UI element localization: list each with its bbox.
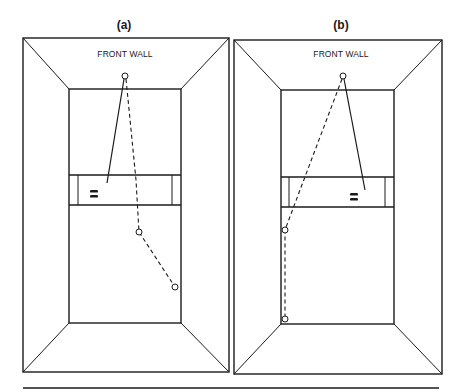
corner-edge: [394, 324, 442, 374]
player-foot-icon: [350, 193, 358, 196]
court-diagram: [0, 0, 460, 392]
panel-b-label: (b): [333, 18, 348, 32]
bounce-point-icon: [136, 229, 142, 235]
corner-edge: [23, 38, 69, 89]
ball-path-dashed: [126, 79, 175, 287]
player-foot-icon: [90, 195, 98, 198]
bounce-point-icon: [282, 316, 288, 322]
bounce-point-icon: [172, 284, 178, 290]
panel-a-front-wall-label: FRONT WALL: [97, 49, 152, 59]
panel-a-court-floor: [69, 89, 181, 323]
corner-edge: [394, 40, 442, 90]
panel-b-front-wall-label: FRONT WALL: [313, 49, 368, 59]
shot-trajectory-solid: [107, 79, 124, 183]
corner-edge: [181, 323, 229, 372]
bounce-point-icon: [282, 227, 288, 233]
corner-edge: [181, 38, 229, 89]
ball-path-dashed: [285, 79, 342, 319]
front-wall-contact-icon: [122, 73, 128, 79]
corner-edge: [234, 40, 281, 90]
diagram-stage: (a) FRONT WALL (b) FRONT WALL: [0, 0, 460, 392]
corner-edge: [234, 324, 281, 374]
shot-trajectory-solid: [344, 79, 365, 190]
front-wall-contact-icon: [340, 73, 346, 79]
corner-edge: [23, 323, 69, 372]
player-foot-icon: [350, 198, 358, 201]
panel-a-label: (a): [117, 18, 132, 32]
player-foot-icon: [90, 190, 98, 193]
